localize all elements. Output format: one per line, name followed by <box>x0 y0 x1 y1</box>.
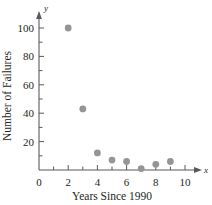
data-point <box>109 157 116 164</box>
x-axis-variable-label: x <box>203 165 208 175</box>
x-tick-label: 8 <box>153 176 159 188</box>
y-axis-title: Number of Failures <box>1 50 13 141</box>
data-point-group <box>65 25 174 172</box>
scatter-plot: y x 100 80 60 40 20 0 2 <box>0 0 212 205</box>
chart-figure: y x 100 80 60 40 20 0 2 <box>0 0 212 205</box>
y-tick-label: 20 <box>23 136 35 148</box>
x-tick-label: 6 <box>124 176 130 188</box>
data-point <box>94 150 101 157</box>
data-point <box>123 158 130 165</box>
y-tick-label: 60 <box>23 79 35 91</box>
x-tick-label: 0 <box>36 176 42 188</box>
y-axis-variable-label: y <box>43 3 48 13</box>
x-tick-label: 10 <box>180 176 192 188</box>
data-point <box>138 165 145 172</box>
y-tick-label: 100 <box>18 22 35 34</box>
y-tick-group: 100 80 60 40 20 <box>18 22 45 148</box>
x-tick-label: 2 <box>65 176 71 188</box>
data-point <box>152 161 159 168</box>
y-tick-label: 80 <box>23 50 35 62</box>
x-axis-title: Years Since 1990 <box>72 190 152 202</box>
y-axis <box>36 11 42 170</box>
x-axis-arrow-icon <box>194 167 202 173</box>
data-point <box>65 25 72 32</box>
x-tick-label: 4 <box>95 176 101 188</box>
x-tick-group: 0 2 4 6 8 10 <box>36 165 191 188</box>
data-point <box>167 158 174 165</box>
y-axis-arrow-icon <box>36 11 42 19</box>
y-tick-label: 40 <box>23 107 35 119</box>
x-axis <box>39 167 202 173</box>
data-point <box>79 106 86 113</box>
